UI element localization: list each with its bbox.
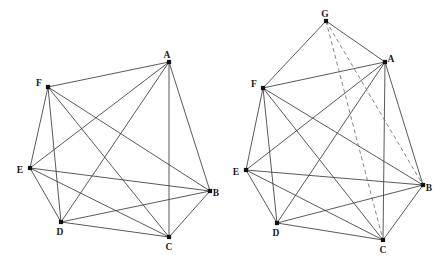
node-c[interactable]: C	[380, 238, 387, 255]
node-dot-e	[28, 166, 32, 170]
edge-a-f	[48, 62, 169, 87]
edge-b-f	[263, 88, 423, 185]
edge-a-d	[61, 62, 169, 222]
node-dot-c	[381, 238, 385, 242]
node-dot-g	[324, 19, 328, 23]
node-dot-d	[59, 220, 63, 224]
node-a[interactable]: A	[383, 54, 395, 64]
node-label-b: B	[213, 188, 220, 198]
left-graph-panel: ABCDEF	[17, 50, 220, 252]
node-c[interactable]: C	[166, 235, 173, 252]
node-label-d: D	[57, 227, 64, 237]
node-label-g: G	[321, 9, 329, 19]
node-label-e: E	[17, 165, 23, 175]
node-e[interactable]: E	[233, 167, 248, 177]
node-f[interactable]: F	[251, 79, 265, 90]
node-g[interactable]: G	[321, 9, 329, 23]
edge-g-f	[263, 21, 326, 88]
right-graph-panel: GABCDEF	[233, 9, 433, 255]
node-label-f: F	[251, 79, 257, 89]
node-f[interactable]: F	[36, 78, 50, 89]
edge-g-b	[326, 21, 423, 185]
node-dot-e	[244, 168, 248, 172]
node-dot-b	[208, 189, 212, 193]
graph-figure: ABCDEF GABCDEF	[0, 0, 447, 260]
figure-canvas: ABCDEF GABCDEF	[0, 0, 447, 260]
node-label-c: C	[166, 242, 173, 252]
node-label-e: E	[233, 167, 239, 177]
node-d[interactable]: D	[273, 221, 280, 238]
node-dot-b	[421, 183, 425, 187]
node-label-b: B	[426, 183, 433, 193]
edge-c-d	[61, 222, 169, 237]
edge-d-f	[48, 87, 61, 222]
edge-b-c	[383, 185, 423, 240]
edge-g-c	[326, 21, 383, 240]
node-dot-c	[167, 235, 171, 239]
edge-c-e	[30, 168, 169, 237]
edge-a-f	[263, 62, 385, 88]
edge-b-f	[48, 87, 210, 191]
edge-a-e	[246, 62, 385, 170]
node-label-f: F	[36, 78, 42, 88]
edge-a-c	[383, 62, 385, 240]
node-e[interactable]: E	[17, 165, 32, 175]
node-b[interactable]: B	[421, 183, 433, 193]
node-dot-f	[261, 86, 265, 90]
node-label-a: A	[388, 54, 395, 64]
node-dot-a	[167, 60, 171, 64]
node-dot-f	[46, 85, 50, 89]
node-a[interactable]: A	[164, 50, 172, 64]
edge-a-b	[169, 62, 210, 191]
node-label-c: C	[380, 245, 387, 255]
edge-e-f	[246, 88, 263, 170]
node-dot-d	[275, 221, 279, 225]
node-label-a: A	[164, 50, 171, 60]
node-b[interactable]: B	[208, 188, 220, 198]
edge-a-b	[385, 62, 423, 185]
node-d[interactable]: D	[57, 220, 64, 237]
node-dot-a	[383, 60, 387, 64]
node-label-d: D	[273, 228, 280, 238]
